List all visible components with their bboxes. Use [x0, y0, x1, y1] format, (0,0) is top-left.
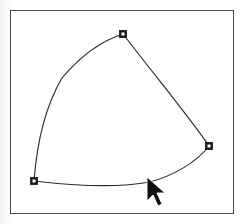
screenshot-root: Curve editing canvas Closed Bezier shape…	[0, 0, 240, 224]
canvas-frame[interactable]	[10, 10, 234, 214]
